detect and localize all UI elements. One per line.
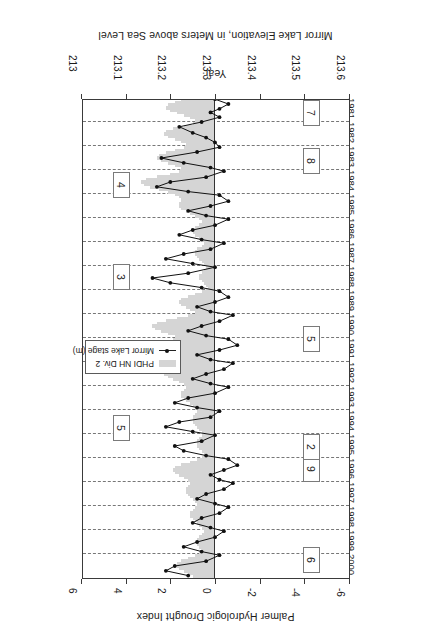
lake-stage-point xyxy=(227,457,231,461)
lake-stage-point xyxy=(218,193,222,197)
lake-stage-point xyxy=(168,281,172,285)
callout-label: 6 xyxy=(306,557,318,563)
callout-label: 9 xyxy=(306,466,318,472)
lake-stage-point xyxy=(195,353,199,357)
lake-stage-point xyxy=(200,550,204,554)
lake-stage-point xyxy=(218,145,222,149)
lake-stage-point xyxy=(195,406,199,410)
elevation-tick-label: 213 xyxy=(67,55,78,72)
lake-stage-point xyxy=(227,199,231,203)
lake-stage-point xyxy=(200,286,204,290)
legend-entry-phdi: PHDI NH Div. 2 xyxy=(90,357,176,370)
phdi-tick-mark xyxy=(215,579,216,584)
phdi-tick-label: -4 xyxy=(290,588,301,597)
callout-box-5: 5 xyxy=(113,415,130,441)
lake-stage-point xyxy=(218,319,222,323)
lake-stage-point xyxy=(177,420,181,424)
lake-stage-point xyxy=(186,209,190,213)
lake-stage-point xyxy=(200,439,204,443)
callout-label: 5 xyxy=(116,425,128,431)
lake-stage-point xyxy=(182,545,186,549)
lake-stage-point xyxy=(218,478,222,482)
lake-stage-point xyxy=(204,492,208,496)
phdi-tick-mark xyxy=(304,579,305,584)
lake-stage-point xyxy=(204,175,208,179)
phdi-tick-label: 2 xyxy=(156,588,167,594)
lake-stage-point xyxy=(218,553,222,557)
lake-stage-point xyxy=(204,559,208,563)
lake-stage-point xyxy=(168,180,172,184)
elevation-tick-label: 213.6 xyxy=(335,55,346,80)
lake-stage-point xyxy=(209,166,213,170)
lake-stage-point xyxy=(186,574,190,578)
lake-stage-point xyxy=(209,526,213,530)
lake-stage-point xyxy=(209,415,213,419)
lake-stage-point xyxy=(164,425,168,429)
phdi-axis-title: Palmer Hydrologic Drought Index xyxy=(0,611,431,623)
lake-stage-point xyxy=(191,430,195,434)
lake-stage-point xyxy=(173,444,177,448)
lake-stage-point xyxy=(204,454,208,458)
lake-stage-point xyxy=(213,223,217,227)
lake-stage-point xyxy=(186,396,190,400)
legend-label-stage: Mirror Lake stage (m) xyxy=(73,345,154,356)
lake-stage-point xyxy=(186,190,190,194)
lake-stage-point xyxy=(227,217,231,221)
lake-stage-point xyxy=(222,367,226,371)
lake-stage-point xyxy=(213,433,217,437)
lake-stage-point xyxy=(227,385,231,389)
lake-stage-point xyxy=(218,348,222,352)
lake-stage-point xyxy=(213,99,217,101)
callout-label: 5 xyxy=(306,336,318,342)
lake-stage-point xyxy=(204,334,208,338)
lake-stage-point xyxy=(182,449,186,453)
lake-stage-point xyxy=(155,185,159,189)
phdi-tick-mark xyxy=(260,579,261,584)
callout-label: 3 xyxy=(116,274,128,280)
lake-stage-point xyxy=(182,161,186,165)
elevation-axis-title: Mirror Lake Elevation, in Meters above S… xyxy=(0,30,431,42)
lake-stage-point xyxy=(231,481,235,485)
lake-stage-point xyxy=(191,131,195,135)
lake-stage-point xyxy=(222,169,226,173)
phdi-tick-mark xyxy=(349,579,350,584)
lake-stage-point xyxy=(213,391,217,395)
callout-label: 4 xyxy=(116,182,128,188)
elevation-tick-label: 213.4 xyxy=(246,55,257,80)
lake-stage-point xyxy=(213,141,217,145)
phdi-tick-label: -6 xyxy=(335,588,346,597)
lake-stage-point xyxy=(222,529,226,533)
callout-box-8: 8 xyxy=(303,148,320,174)
phdi-tick-mark xyxy=(170,579,171,584)
callout-label: 2 xyxy=(306,444,318,450)
lake-stage-point xyxy=(222,487,226,491)
lake-stage-point xyxy=(164,257,168,261)
lake-stage-point xyxy=(227,102,231,106)
lake-stage-point xyxy=(209,204,213,208)
callout-box-6: 6 xyxy=(303,547,320,573)
callout-box-2: 2 xyxy=(303,434,320,460)
lake-stage-point xyxy=(213,502,217,506)
lake-stage-point xyxy=(182,252,186,256)
lake-stage-point xyxy=(235,343,239,347)
phdi-tick-mark xyxy=(126,579,127,584)
lake-stage-point xyxy=(204,136,208,140)
lake-stage-point xyxy=(235,463,239,467)
lake-stage-point xyxy=(151,276,155,280)
lake-stage-point xyxy=(200,324,204,328)
chart-legend: PHDI NH Div. 2 Mirror Lake stage (m) xyxy=(85,340,181,374)
lake-stage-point xyxy=(173,564,177,568)
chart-figure: Palmer Hydrologic Drought Index Year Mir… xyxy=(0,0,431,642)
lake-stage-point xyxy=(200,120,204,124)
lake-stage-point xyxy=(191,377,195,381)
figure-rotator: Palmer Hydrologic Drought Index Year Mir… xyxy=(0,0,431,642)
elevation-tick-label: 213.3 xyxy=(201,55,212,80)
lake-stage-point xyxy=(195,305,199,309)
lake-stage-point xyxy=(177,125,181,129)
lake-stage-point xyxy=(195,497,199,501)
callout-label: 8 xyxy=(306,158,318,164)
lake-stage-point xyxy=(227,295,231,299)
lake-stage-point xyxy=(213,300,217,304)
lake-stage-point xyxy=(209,473,213,477)
lake-stage-point xyxy=(209,111,213,115)
